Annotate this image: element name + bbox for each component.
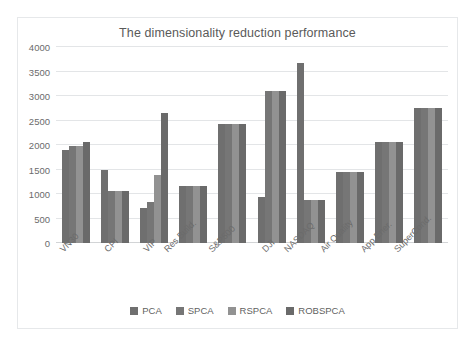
bar-group bbox=[252, 47, 291, 243]
legend-item[interactable]: ROBSPCA bbox=[286, 305, 344, 316]
bar-group bbox=[409, 47, 448, 243]
bar[interactable] bbox=[193, 186, 200, 243]
bar[interactable] bbox=[62, 150, 69, 243]
bar[interactable] bbox=[122, 191, 129, 243]
bar-group bbox=[174, 47, 213, 243]
x-label-slot: CPI bbox=[95, 244, 134, 302]
x-axis-labels: VN30CPIVIPRes.Build.S&P500DJINASDAQAir Q… bbox=[56, 244, 448, 302]
bar[interactable] bbox=[161, 113, 168, 243]
bar[interactable] bbox=[69, 146, 76, 243]
bar[interactable] bbox=[265, 91, 272, 243]
bar[interactable] bbox=[350, 172, 357, 243]
y-tick-label: 2500 bbox=[29, 115, 50, 126]
bar-group bbox=[134, 47, 173, 243]
bar[interactable] bbox=[435, 108, 442, 243]
bar[interactable] bbox=[200, 186, 207, 243]
y-tick-label: 500 bbox=[34, 213, 50, 224]
y-tick-label: 3500 bbox=[29, 66, 50, 77]
bar[interactable] bbox=[396, 142, 403, 243]
bar-group bbox=[213, 47, 252, 243]
x-label-slot: S&P500 bbox=[213, 244, 252, 302]
y-tick-label: 0 bbox=[45, 238, 50, 249]
plot-area: 05001000150020002500300035004000 bbox=[56, 47, 448, 243]
bar[interactable] bbox=[83, 142, 90, 243]
bar-group bbox=[370, 47, 409, 243]
bar[interactable] bbox=[101, 170, 108, 243]
chart-container: The dimensionality reduction performance… bbox=[17, 17, 458, 329]
x-label-slot: Res.Build. bbox=[174, 244, 213, 302]
chart-title: The dimensionality reduction performance bbox=[18, 26, 457, 40]
y-tick-label: 1000 bbox=[29, 189, 50, 200]
y-tick-label: 3000 bbox=[29, 91, 50, 102]
legend-item[interactable]: RSPCA bbox=[228, 305, 273, 316]
bar-group bbox=[330, 47, 369, 243]
bar[interactable] bbox=[140, 208, 147, 243]
bar[interactable] bbox=[279, 91, 286, 243]
x-label-slot: DJI bbox=[252, 244, 291, 302]
y-tick-label: 2000 bbox=[29, 140, 50, 151]
x-label-slot: VN30 bbox=[56, 244, 95, 302]
legend-label: RSPCA bbox=[240, 305, 273, 316]
bar[interactable] bbox=[258, 197, 265, 243]
legend-label: SPCA bbox=[188, 305, 214, 316]
bar[interactable] bbox=[297, 63, 304, 243]
bar[interactable] bbox=[311, 200, 318, 243]
bar-group bbox=[95, 47, 134, 243]
legend-swatch-icon bbox=[228, 307, 236, 315]
y-tick-label: 4000 bbox=[29, 42, 50, 53]
legend-item[interactable]: PCA bbox=[130, 305, 162, 316]
legend-label: PCA bbox=[142, 305, 162, 316]
x-label-slot: SuperCond. bbox=[409, 244, 448, 302]
bar[interactable] bbox=[108, 191, 115, 243]
bar[interactable] bbox=[318, 200, 325, 243]
legend-label: ROBSPCA bbox=[298, 305, 344, 316]
bar[interactable] bbox=[218, 124, 225, 243]
legend-item[interactable]: SPCA bbox=[176, 305, 214, 316]
bar[interactable] bbox=[154, 175, 161, 243]
bar[interactable] bbox=[272, 91, 279, 243]
bar[interactable] bbox=[115, 191, 122, 243]
bar[interactable] bbox=[76, 146, 83, 243]
legend-swatch-icon bbox=[130, 307, 138, 315]
bar-group bbox=[56, 47, 95, 243]
bar[interactable] bbox=[357, 172, 364, 243]
x-label-slot: App.Ener. bbox=[370, 244, 409, 302]
legend-swatch-icon bbox=[286, 307, 294, 315]
chart-legend: PCASPCARSPCAROBSPCA bbox=[18, 305, 457, 316]
y-tick-label: 1500 bbox=[29, 164, 50, 175]
bar-series-layer bbox=[56, 47, 448, 243]
bar[interactable] bbox=[239, 124, 246, 243]
bar[interactable] bbox=[232, 124, 239, 243]
legend-swatch-icon bbox=[176, 307, 184, 315]
bar-group bbox=[291, 47, 330, 243]
